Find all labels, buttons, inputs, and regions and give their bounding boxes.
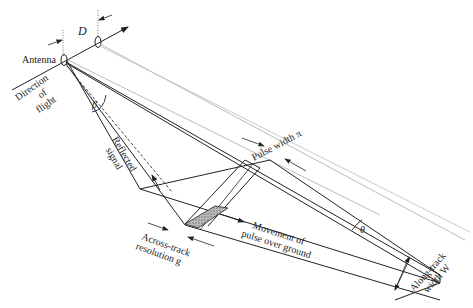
- label-theta: θ: [360, 224, 365, 235]
- radar-geometry-diagram: D Antenna Direction of flight β Reflecte…: [0, 0, 473, 308]
- antenna-icon: [61, 55, 67, 66]
- label-flight: flight: [34, 93, 58, 115]
- d-arrow-left: [48, 40, 62, 45]
- label-pulse-width: Pulse width π: [250, 127, 303, 162]
- d-arrow-right: [99, 15, 112, 20]
- diagram-canvas: D Antenna Direction of flight β Reflecte…: [0, 0, 473, 308]
- label-antenna: Antenna: [22, 54, 56, 65]
- label-d: D: [77, 24, 87, 38]
- label-beta: β: [91, 99, 97, 110]
